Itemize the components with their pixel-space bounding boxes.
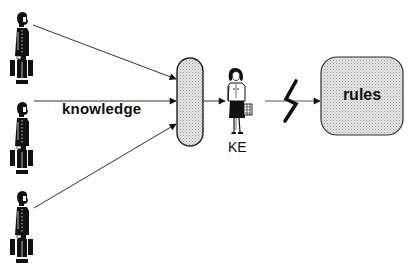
knowledge-acquisition-diagram: knowledge KE rules <box>0 0 417 275</box>
expert-figure-3 <box>10 191 33 263</box>
arrow-expert-1-to-collector <box>33 25 176 79</box>
knowledge-collector-pill <box>177 58 203 146</box>
knowledge-engineer-figure <box>228 68 252 134</box>
arrow-engineer-to-rules-broken <box>265 81 320 121</box>
knowledge-label: knowledge <box>62 100 141 117</box>
rules-label: rules <box>321 86 403 104</box>
expert-figure-2 <box>10 102 33 174</box>
expert-figure-1 <box>10 12 33 84</box>
diagram-svg <box>0 0 417 275</box>
arrow-expert-3-to-collector <box>34 124 176 208</box>
knowledge-engineer-label: KE <box>228 139 247 155</box>
